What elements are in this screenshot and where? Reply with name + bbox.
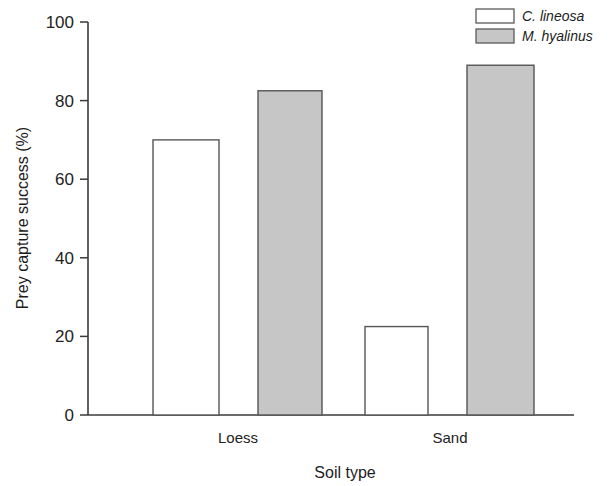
y-axis-title: Prey capture success (%) <box>14 127 31 309</box>
bar-chart-figure: 100 80 60 40 20 0 Prey capture success (… <box>0 0 610 486</box>
legend: C. lineosa M. hyalinus <box>476 8 593 44</box>
bar-sand-m-hyalinus <box>467 65 534 415</box>
y-tick-labels: 100 80 60 40 20 0 <box>46 13 74 425</box>
chart-canvas: 100 80 60 40 20 0 Prey capture success (… <box>0 0 610 486</box>
y-tick-label-100: 100 <box>46 13 74 32</box>
x-category-label-sand: Sand <box>432 429 467 446</box>
x-axis-title: Soil type <box>314 464 375 481</box>
bar-loess-m-hyalinus <box>258 91 322 415</box>
legend-swatch-c-lineosa <box>476 9 514 23</box>
legend-label-m-hyalinus: M. hyalinus <box>522 28 593 44</box>
y-tick-label-60: 60 <box>55 170 74 189</box>
bar-sand-c-lineosa <box>365 327 428 415</box>
y-tick-label-20: 20 <box>55 327 74 346</box>
y-tick-label-40: 40 <box>55 249 74 268</box>
y-tick-label-0: 0 <box>65 406 74 425</box>
bar-loess-c-lineosa <box>153 140 219 415</box>
category-labels: Loess Sand <box>218 429 468 446</box>
legend-swatch-m-hyalinus <box>476 29 514 43</box>
x-category-label-loess: Loess <box>218 429 258 446</box>
bars-group <box>153 65 534 415</box>
legend-label-c-lineosa: C. lineosa <box>522 8 584 24</box>
y-tick-label-80: 80 <box>55 92 74 111</box>
